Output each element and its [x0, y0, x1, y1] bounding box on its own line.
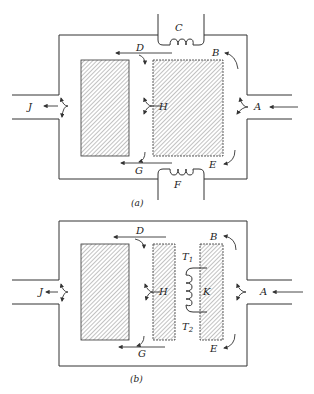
label-e: E — [208, 159, 217, 170]
label-h: H — [158, 101, 168, 112]
figure-a: C D B H A J G E F (a) — [12, 14, 298, 208]
arrow-b-b — [224, 236, 236, 250]
left-block-a — [81, 60, 129, 156]
arrow-e-b — [224, 334, 235, 348]
label-t1: T1 — [182, 251, 193, 264]
chamber-outline-b — [12, 221, 292, 366]
label-a-b: A — [259, 286, 267, 297]
label-b: B — [211, 47, 219, 58]
label-b-b: B — [209, 231, 217, 242]
label-g-b: G — [138, 348, 146, 359]
label-a: A — [253, 101, 261, 112]
label-f: F — [173, 179, 182, 190]
arrow-e — [224, 150, 235, 164]
diagram-canvas: C D B H A J G E F (a) — [0, 0, 314, 394]
coil-f — [158, 169, 204, 200]
label-t2: T2 — [182, 321, 194, 334]
chamber-outline-a — [12, 35, 292, 179]
left-block-b — [81, 244, 129, 340]
arrow-j-b — [61, 284, 68, 292]
label-d: D — [135, 42, 144, 53]
label-d-b: D — [135, 225, 144, 236]
label-g: G — [135, 165, 143, 176]
arrow-j — [61, 98, 68, 106]
figure-b: D B T1 K H A J T2 G E (b) — [12, 221, 303, 384]
label-j: J — [26, 101, 33, 112]
label-e-b: E — [209, 343, 218, 354]
label-c: C — [175, 22, 183, 33]
caption-a: (a) — [131, 198, 144, 208]
label-h-b: H — [158, 286, 168, 297]
label-k: K — [202, 286, 211, 297]
label-j-b: J — [37, 286, 44, 297]
caption-b: (b) — [130, 374, 143, 384]
arrow-b — [225, 53, 238, 69]
